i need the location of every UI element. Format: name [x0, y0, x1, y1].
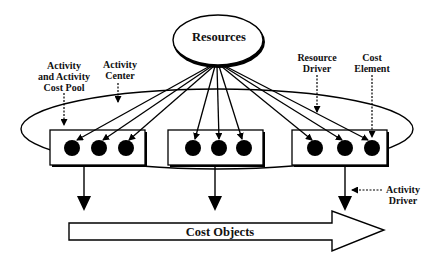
- activity-driver-arrows: [77, 167, 352, 211]
- annotation-cost-element: Cost Element: [352, 52, 392, 74]
- annotation-activity-cost-pool: Activity and Activity Cost Pool: [34, 60, 94, 93]
- annotation-line: Driver: [383, 195, 423, 206]
- annotation-line: Element: [352, 63, 392, 74]
- annotation-activity-driver: Activity Driver: [383, 184, 423, 206]
- annotation-line: Center: [100, 70, 140, 81]
- annotation-line: Cost: [352, 52, 392, 63]
- annotation-line: Activity: [34, 60, 94, 71]
- annotation-resource-driver: Resource Driver: [295, 52, 339, 74]
- annotation-line: Cost Pool: [34, 82, 94, 93]
- cost-objects-label: Cost Objects: [150, 225, 290, 239]
- annotation-line: Activity: [383, 184, 423, 195]
- resources-label: Resources: [183, 32, 255, 43]
- annotation-line: Resource: [295, 52, 339, 63]
- annotation-line: Driver: [295, 63, 339, 74]
- annotation-line: Activity: [100, 59, 140, 70]
- annotation-activity-center: Activity Center: [100, 59, 140, 81]
- annotation-line: and Activity: [34, 71, 94, 82]
